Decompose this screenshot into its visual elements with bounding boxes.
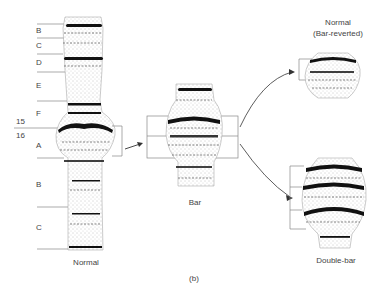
band-number-16: 16	[16, 131, 25, 140]
double-bar-chromosome	[302, 158, 366, 248]
region-label-B1: B	[36, 26, 41, 35]
caption-reverted-line1: Normal	[308, 18, 368, 27]
arrow-to-double-bar	[240, 144, 290, 197]
region-label-C1: C	[36, 41, 42, 50]
normal-chromosome	[56, 17, 115, 250]
caption-double-bar: Double-bar	[306, 256, 366, 265]
region-label-C2: C	[36, 223, 42, 232]
panel-label: (b)	[182, 274, 206, 283]
region-label-E: E	[36, 81, 41, 90]
arrow-to-bar	[125, 144, 140, 149]
caption-bar: Bar	[180, 198, 210, 207]
band-number-15: 15	[16, 117, 25, 126]
region-label-F: F	[36, 109, 41, 118]
arrow-to-reverted	[240, 72, 292, 127]
region-label-A: A	[36, 141, 41, 150]
region-label-B2: B	[36, 180, 41, 189]
region-label-D: D	[36, 58, 42, 67]
caption-reverted-line2: (Bar-reverted)	[300, 29, 376, 38]
caption-normal: Normal	[68, 258, 104, 267]
diagram-graphics	[0, 0, 385, 284]
